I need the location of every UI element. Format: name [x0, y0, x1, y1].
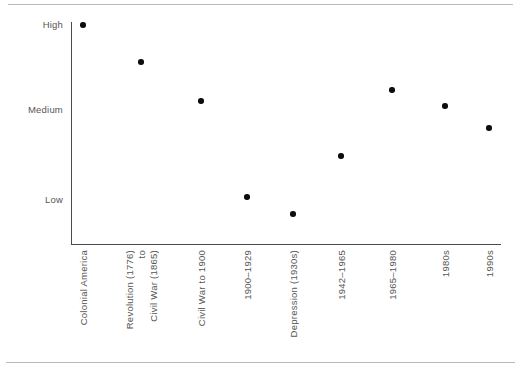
data-point	[244, 194, 250, 200]
x-tick-group: Colonial America	[78, 250, 90, 360]
x-tick-label: 1980s	[440, 250, 452, 277]
x-tick-label: to	[136, 250, 148, 258]
x-axis-line	[71, 244, 501, 245]
x-tick-group: 1980s	[440, 250, 452, 360]
x-tick-label: Revolution (1776)	[124, 250, 136, 329]
y-axis-line	[71, 22, 72, 245]
y-tick-label: High	[1, 20, 63, 30]
data-point	[338, 153, 344, 159]
data-point	[486, 125, 492, 131]
x-tick-group: 1900–1929	[242, 250, 254, 360]
x-tick-label: Depression (1930s)	[288, 250, 300, 337]
x-tick-group: 1942–1965	[336, 250, 348, 360]
data-point	[442, 103, 448, 109]
x-tick-label: Civil War to 1900	[196, 250, 208, 326]
x-tick-group: 1965–1980	[387, 250, 399, 360]
x-tick-label: Civil War (1865)	[148, 250, 160, 322]
page-rule-bottom	[6, 362, 515, 363]
y-tick-label: Low	[1, 195, 63, 205]
data-point	[389, 87, 395, 93]
page-rule-top	[8, 4, 513, 5]
x-tick-group: Depression (1930s)	[288, 250, 300, 360]
x-tick-label: 1900–1929	[242, 250, 254, 300]
y-tick-label: Medium	[1, 105, 63, 115]
data-point	[290, 211, 296, 217]
data-point	[80, 22, 86, 28]
x-tick-label: 1965–1980	[387, 250, 399, 300]
x-tick-label: 1942–1965	[336, 250, 348, 300]
data-point	[138, 59, 144, 65]
x-tick-label: Colonial America	[78, 250, 90, 325]
x-tick-label: 1990s	[484, 250, 496, 277]
data-point	[198, 98, 204, 104]
chart-figure: HighMediumLow Colonial AmericaRevolution…	[0, 0, 525, 369]
x-tick-group: Civil War to 1900	[196, 250, 208, 360]
x-tick-group: Revolution (1776)toCivil War (1865)	[124, 250, 160, 360]
x-tick-group: 1990s	[484, 250, 496, 360]
